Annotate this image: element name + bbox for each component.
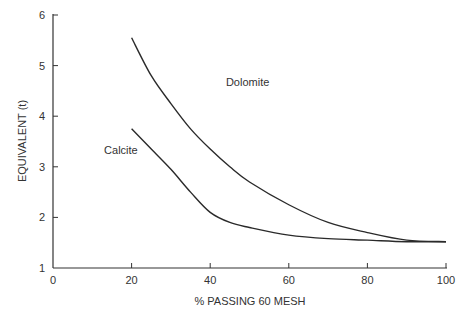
y-axis-label: EQUIVALENT (t) [16,100,28,182]
line-chart: 123456 020406080100 DolomiteCalcite % PA… [0,0,468,320]
x-tick-label: 60 [283,274,295,286]
curve-labels: DolomiteCalcite [104,76,269,156]
axes: 123456 020406080100 [39,9,455,286]
y-tick-label: 4 [39,110,45,122]
series-lines [132,38,446,242]
y-tick-label: 6 [39,9,45,21]
x-tick-label: 20 [125,274,137,286]
x-ticks: 020406080100 [50,263,455,286]
x-tick-label: 0 [50,274,56,286]
curve-label-dolomite: Dolomite [226,76,269,88]
x-tick-label: 100 [437,274,455,286]
y-tick-label: 1 [39,262,45,274]
x-axis-label: % PASSING 60 MESH [194,295,305,307]
y-tick-label: 5 [39,60,45,72]
curve-label-calcite: Calcite [104,144,138,156]
x-tick-label: 80 [361,274,373,286]
y-tick-label: 2 [39,211,45,223]
series-line-dolomite [132,38,446,242]
y-tick-label: 3 [39,161,45,173]
y-ticks: 123456 [39,9,58,274]
series-line-calcite [132,129,446,242]
x-tick-label: 40 [204,274,216,286]
